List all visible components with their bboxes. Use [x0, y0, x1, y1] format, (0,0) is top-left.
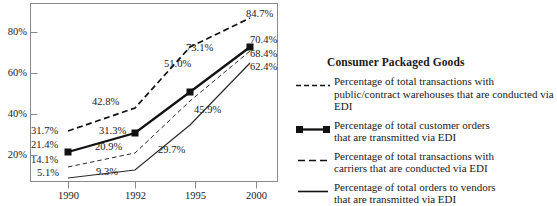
data-label-29-7: 29.7% — [158, 145, 185, 156]
dashed-line-swatch-icon — [296, 153, 330, 166]
solid-line-swatch-icon — [296, 184, 330, 197]
data-label-14-1: 14.1% — [31, 155, 58, 166]
fine-dashed-line-swatch-icon — [296, 78, 330, 91]
data-label-21-4: 21.4% — [31, 140, 58, 151]
data-label-62-4: 62.4% — [250, 62, 277, 73]
chart-legend: Consumer Packaged Goods Percentage of to… — [296, 56, 554, 206]
data-label-51-0: 51.0% — [164, 59, 191, 70]
chart-screenshot: 80% 60% 40% 20% 1990 1992 1995 2000 84.7… — [0, 0, 557, 206]
legend-item-public-contract-warehouses: Percentage of total transactions with pu… — [296, 75, 554, 113]
legend-item-customer-orders: Percentage of total customer orders that… — [296, 119, 554, 144]
line-chart: 80% 60% 40% 20% 1990 1992 1995 2000 84.7… — [0, 0, 290, 206]
data-label-31-7: 31.7% — [31, 126, 58, 137]
data-label-42-8: 42.8% — [92, 97, 119, 108]
data-label-84-7: 84.7% — [246, 9, 273, 20]
data-label-73-1: 73.1% — [186, 43, 213, 54]
x-axis-ticks — [69, 182, 257, 189]
legend-label-customer-orders: Percentage of total customer orders that… — [334, 119, 490, 144]
x-tick-label-1992: 1992 — [113, 191, 158, 202]
legend-label-orders-to-vendors: Percentage of total orders to vendors th… — [334, 181, 496, 206]
data-label-20-9: 20.9% — [95, 142, 122, 153]
x-tick-label-1990: 1990 — [46, 191, 91, 202]
y-tick-label-40: 40% — [0, 109, 27, 120]
legend-item-orders-to-vendors: Percentage of total orders to vendors th… — [296, 181, 554, 206]
data-label-70-4: 70.4% — [250, 35, 277, 46]
data-label-31-3: 31.3% — [99, 126, 126, 137]
y-tick-label-20: 20% — [0, 150, 27, 161]
legend-item-carriers: Percentage of total transactions with ca… — [296, 150, 554, 175]
legend-label-carriers: Percentage of total transactions with ca… — [334, 150, 494, 175]
data-label-5-1: 5.1% — [37, 168, 59, 179]
data-label-9-3: 9.3% — [96, 167, 118, 178]
data-label-45-9: 45.9% — [194, 105, 221, 116]
x-tick-label-2000: 2000 — [234, 191, 279, 202]
y-tick-label-80: 80% — [0, 27, 27, 38]
x-tick-label-1995: 1995 — [173, 191, 218, 202]
legend-label-public-contract-warehouses: Percentage of total transactions with pu… — [334, 75, 554, 113]
y-tick-label-60: 60% — [0, 68, 27, 79]
solid-line-with-squares-swatch-icon — [296, 122, 330, 135]
legend-title: Consumer Packaged Goods — [327, 56, 554, 68]
data-label-68-4: 68.4% — [250, 49, 277, 60]
